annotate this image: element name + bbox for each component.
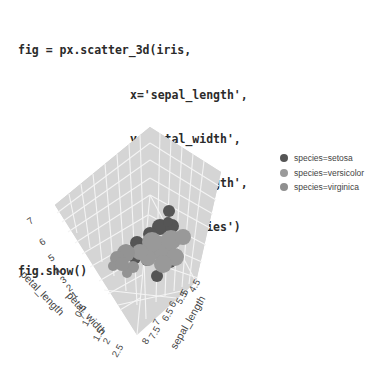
- legend-marker-icon: [280, 154, 288, 162]
- legend-marker-icon: [280, 183, 288, 191]
- svg-text:7: 7: [25, 215, 36, 227]
- y-axis-title: petal_width: [65, 289, 110, 337]
- legend-item-setosa[interactable]: species=setosa: [280, 151, 364, 166]
- svg-text:2.5: 2.5: [109, 342, 125, 359]
- svg-text:6: 6: [37, 236, 48, 248]
- legend-label: species=versicolor: [294, 168, 364, 178]
- legend: species=setosa species=versicolor specie…: [280, 151, 364, 195]
- svg-text:5: 5: [46, 252, 57, 264]
- svg-text:2: 2: [100, 336, 112, 346]
- legend-item-virginica[interactable]: species=virginica: [280, 180, 364, 195]
- legend-marker-icon: [280, 169, 288, 177]
- legend-item-versicolor[interactable]: species=versicolor: [280, 166, 364, 181]
- legend-label: species=virginica: [294, 182, 359, 192]
- legend-label: species=setosa: [294, 153, 353, 163]
